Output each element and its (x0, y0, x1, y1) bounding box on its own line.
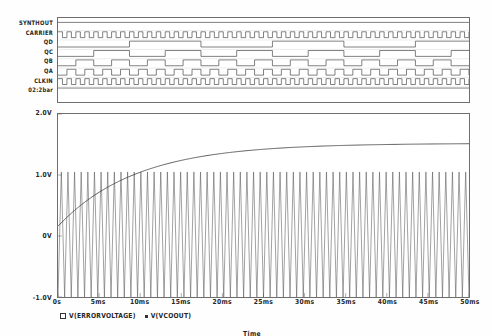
x-axis-tick-label: 50ms (460, 299, 479, 306)
legend-series-label[interactable]: V(ERRORVOLTAGE) (69, 313, 136, 320)
x-axis-tick-label: 10ms (130, 299, 149, 306)
legend-entry[interactable]: V(VCOOUT) (145, 313, 192, 319)
x-axis-tick-label: 5ms (91, 299, 106, 306)
x-axis-title: Time (0, 321, 492, 336)
digital-signal-label-qd[interactable]: QD (44, 40, 53, 46)
digital-signal-label-02-2bar[interactable]: 02:2bar (28, 88, 53, 94)
digital-waveform-plot (58, 18, 469, 102)
legend-dot-marker-icon (145, 315, 148, 318)
legend-series-label[interactable]: V(VCOOUT) (151, 313, 192, 320)
legend[interactable]: V(ERRORVOLTAGE)V(VCOOUT) (60, 311, 191, 321)
digital-waveform-pane[interactable] (57, 17, 470, 103)
y-axis-tick-label: 2.0V (36, 110, 52, 117)
x-axis-tick-label: 30ms (295, 299, 314, 306)
x-axis-tick-label: 0s (53, 299, 61, 306)
analog-waveform-pane[interactable] (57, 113, 470, 298)
x-axis-title-label: Time (243, 329, 261, 336)
x-axis-tick-label: 40ms (378, 299, 397, 306)
x-axis-tick-label: 25ms (254, 299, 273, 306)
digital-signal-label-qb[interactable]: QB (44, 59, 53, 65)
x-axis: 0s5ms10ms15ms20ms25ms30ms35ms40ms45ms50m… (0, 299, 492, 311)
waveform-viewer-canvas: SYNTHOUTCARRIERQDQCQBQACLKIN02:2bar 2.0V… (0, 0, 492, 336)
digital-signal-label-qc[interactable]: QC (44, 49, 53, 55)
y-axis-tick-label: 0V (43, 233, 52, 240)
digital-signal-label-carrier[interactable]: CARRIER (26, 30, 53, 36)
legend-square-marker-icon (60, 313, 66, 319)
x-axis-tick-label: 20ms (213, 299, 232, 306)
digital-signal-label-clkin[interactable]: CLKIN (34, 78, 53, 84)
analog-waveform-plot (58, 114, 469, 297)
x-axis-tick-label: 15ms (171, 299, 190, 306)
digital-signal-label-synthout[interactable]: SYNTHOUT (19, 21, 53, 27)
y-axis: 2.0V1.0V0V-1.0V (0, 113, 55, 298)
digital-signal-name-gutter: SYNTHOUTCARRIERQDQCQBQACLKIN02:2bar (0, 17, 55, 103)
legend-entry[interactable]: V(ERRORVOLTAGE) (60, 313, 136, 319)
x-axis-tick-label: 35ms (336, 299, 355, 306)
x-axis-tick-label: 45ms (419, 299, 438, 306)
digital-signal-label-qa[interactable]: QA (44, 69, 53, 75)
y-axis-tick-label: 1.0V (36, 171, 52, 178)
